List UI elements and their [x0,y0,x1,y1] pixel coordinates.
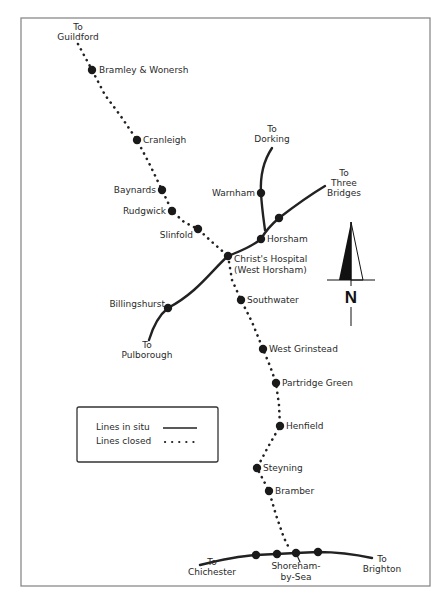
station-label-baynards: Baynards [114,185,156,195]
closed-line-guildford [78,44,228,256]
station-label-cranleigh: Cranleigh [143,135,186,145]
north-arrow: N [327,222,375,326]
legend-label-closed: Lines closed [96,436,151,446]
station-label-christs-hospital: Christ's Hospital [234,254,307,264]
station-dot-christs-hospital [224,252,232,260]
north-arrow-left-half [339,222,351,280]
destination-label-to-chichester: Chichester [188,567,236,577]
station-dot-rudgwick [168,207,176,215]
station-dot-henfield [276,422,284,430]
station-label-slinfold: Slinfold [160,230,193,240]
station-dot-cranleigh [133,136,141,144]
stations: Bramley & WonershCranleighBaynardsRudgwi… [88,65,353,582]
north-arrow-right-half [351,222,363,280]
line-three-bridges [261,186,325,239]
legend-label-in-situ: Lines in situ [96,422,150,432]
station-label-bramley: Bramley & Wonersh [99,65,188,75]
map-frame [21,18,430,586]
station-label-partridge-green: Partridge Green [282,378,353,388]
station-dot-southwater [237,296,245,304]
destination-label-to-dorking: Dorking [254,134,289,144]
station-dot-coast-2 [273,550,281,558]
station-label-steyning: Steyning [263,463,303,473]
station-dot-baynards [158,186,166,194]
station-dot-partridge-green [272,379,280,387]
station-dot-steyning [253,464,261,472]
line-dorking [261,148,272,230]
destination-label-to-three-bridges: Bridges [327,188,361,198]
station-label2-shoreham: by-Sea [281,572,312,582]
station-dot-bramber [265,487,273,495]
station-dot-slinfold [194,225,202,233]
station-dot-horsham [257,235,265,243]
station-label2-christs-hospital: (West Horsham) [234,265,307,275]
station-label-west-grinstead: West Grinstead [269,344,338,354]
destination-label-to-brighton: Brighton [363,564,402,574]
station-dot-billingshurst [164,304,172,312]
destination-label-to-guildford: Guildford [57,32,98,42]
station-dot-coast-1 [252,551,260,559]
destination-label-to-dorking: To [266,124,277,134]
station-label-shoreham: Shoreham- [271,561,320,571]
station-dot-west-grinstead [259,345,267,353]
station-dot-three-bridges-intermediate [275,214,283,222]
destination-label-to-brighton: To [376,554,387,564]
open-lines [149,148,372,565]
station-label-bramber: Bramber [275,486,314,496]
north-label: N [345,288,357,307]
destination-label-to-pulborough: Pulborough [122,350,173,360]
destination-label-to-three-bridges: Three [330,178,357,188]
destination-label-to-three-bridges: To [338,168,349,178]
legend: Lines in situ Lines closed [77,407,218,462]
legend-box [77,407,218,462]
station-label-billingshurst: Billingshurst [109,299,165,309]
destination-label-to-pulborough: To [141,340,152,350]
station-label-warnham: Warnham [212,188,255,198]
destination-label-to-guildford: To [72,22,83,32]
station-dot-warnham [257,189,265,197]
station-dot-coast-4 [314,548,322,556]
station-label-southwater: Southwater [247,295,299,305]
railway-map: Bramley & WonershCranleighBaynardsRudgwi… [0,0,445,603]
station-label-horsham: Horsham [267,234,308,244]
station-label-rudgwick: Rudgwick [123,206,167,216]
station-dot-bramley [88,66,96,74]
station-dot-shoreham [292,549,300,557]
destination-label-to-chichester: To [206,557,217,567]
station-label-henfield: Henfield [286,421,323,431]
